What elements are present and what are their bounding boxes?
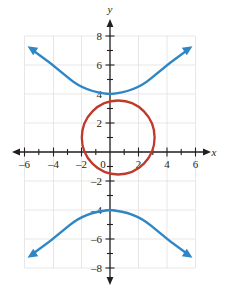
graph-figure: –6 –4 –2 0 2 4 6 –8 –6 –4 –2 2 4 6 8 x y — [0, 0, 225, 290]
y-tick-label: 8 — [97, 30, 103, 42]
y-tick-label: 6 — [97, 59, 103, 71]
coordinate-plane: –6 –4 –2 0 2 4 6 –8 –6 –4 –2 2 4 6 8 x y — [0, 0, 225, 290]
y-axis-label: y — [107, 3, 113, 15]
x-tick-label-origin: 0 — [100, 158, 106, 170]
x-axis-label: x — [211, 146, 217, 158]
y-tick-label: –6 — [90, 233, 103, 245]
x-tick-label: –4 — [47, 158, 60, 170]
x-tick-label: –2 — [75, 158, 87, 170]
y-tick-label: 2 — [97, 117, 103, 129]
y-tick-label: –2 — [90, 175, 102, 187]
x-tick-label: 4 — [164, 158, 170, 170]
y-tick-label: –8 — [90, 262, 103, 274]
x-tick-label: –6 — [18, 158, 31, 170]
figure-background — [0, 0, 225, 290]
x-tick-label: 6 — [193, 158, 199, 170]
